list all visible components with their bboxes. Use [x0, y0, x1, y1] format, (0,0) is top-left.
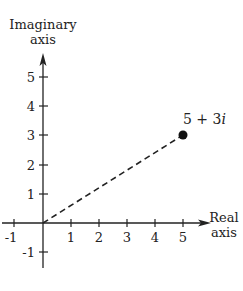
- point-label: 5 + 3i: [183, 111, 226, 127]
- y-tick-label: 3: [27, 128, 35, 143]
- x-tick-labels: -1 1 2 3 4 5: [5, 230, 187, 245]
- vector-dashed-line: [43, 135, 183, 223]
- y-tick-label: 4: [27, 99, 35, 114]
- y-tick-label: 5: [27, 70, 35, 85]
- x-tick-label: 3: [123, 230, 131, 245]
- x-tick-label: -1: [5, 230, 18, 245]
- point-marker: [179, 131, 188, 140]
- x-tick-label: 1: [67, 230, 75, 245]
- x-tick-label: 5: [179, 230, 187, 245]
- y-tick-labels: 5 4 3 2 1 -1: [22, 70, 35, 260]
- real-axis-label-line2: axis: [211, 225, 237, 240]
- x-tick-label: 2: [95, 230, 103, 245]
- x-tick-label: 4: [151, 230, 159, 245]
- imaginary-axis-label-line2: axis: [30, 32, 56, 47]
- complex-plane-diagram: Imaginary axis Real axis -1 1 2 3 4 5 5 …: [0, 0, 243, 291]
- y-tick-label: -1: [22, 245, 35, 260]
- y-tick-label: 2: [27, 158, 35, 173]
- real-axis-label-line1: Real: [209, 210, 238, 225]
- y-tick-label: 1: [27, 187, 35, 202]
- imaginary-axis-label-line1: Imaginary: [9, 17, 77, 32]
